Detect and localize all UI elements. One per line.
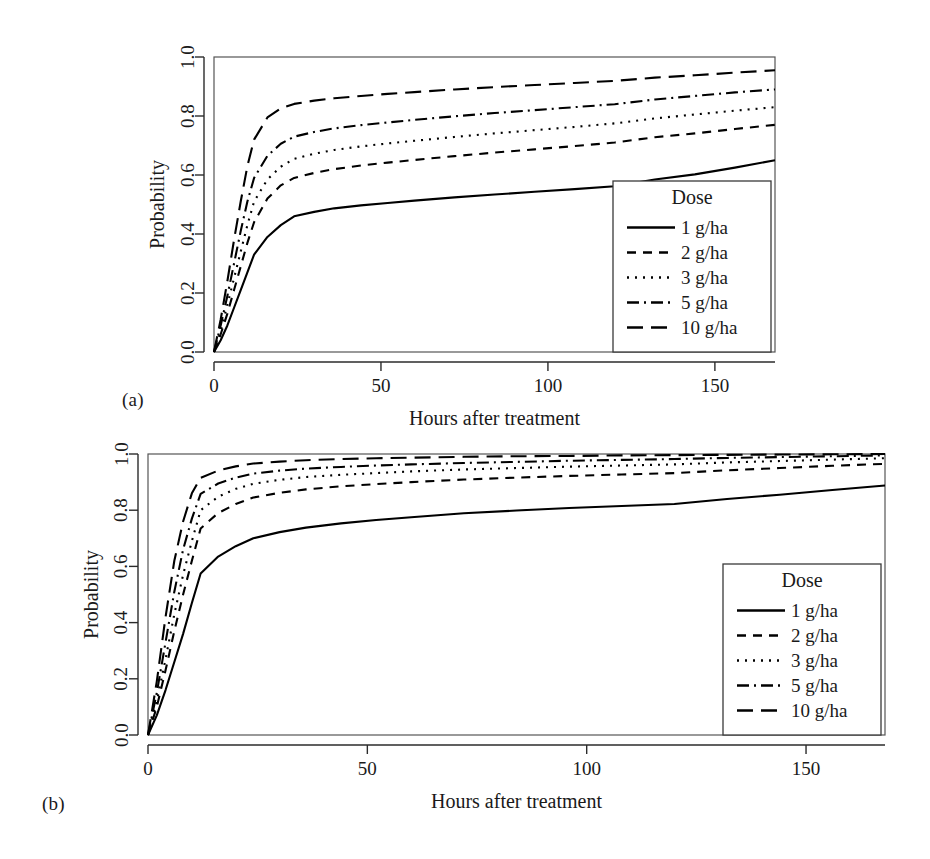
legend-label: 10 g/ha (681, 317, 738, 338)
x-axis-title: Hours after treatment (431, 790, 602, 812)
y-tick-label: 0.2 (111, 667, 132, 691)
panel-caption-b: (b) (42, 793, 65, 815)
y-tick-label: 0.6 (177, 163, 198, 187)
legend: Dose1 g/ha2 g/ha3 g/ha5 g/ha10 g/ha (723, 564, 881, 735)
panel-caption-a: (a) (122, 389, 144, 411)
y-tick-label: 0.0 (111, 723, 132, 747)
chart-svg-b: 0.00.20.40.60.81.0050100150Hours after t… (0, 425, 930, 859)
y-tick-label: 0.4 (177, 222, 198, 246)
x-tick-label: 150 (792, 758, 821, 779)
legend-label: 3 g/ha (791, 650, 839, 671)
chart-panel-b: 0.00.20.40.60.81.0050100150Hours after t… (0, 425, 930, 859)
legend-label: 10 g/ha (791, 700, 848, 721)
y-tick-label: 0.6 (111, 555, 132, 579)
legend-label: 1 g/ha (791, 600, 839, 621)
legend-title: Dose (781, 569, 822, 591)
y-tick-label: 0.2 (177, 281, 198, 305)
legend: Dose1 g/ha2 g/ha3 g/ha5 g/ha10 g/ha (613, 181, 771, 352)
legend-title: Dose (671, 186, 712, 208)
x-tick-label: 0 (143, 758, 153, 779)
y-tick-label: 1.0 (177, 45, 198, 69)
figure-root: 0.00.20.40.60.81.0050100150Hours after t… (0, 0, 930, 859)
y-tick-label: 1.0 (111, 442, 132, 466)
x-tick-label: 150 (701, 375, 730, 396)
y-tick-label: 0.8 (111, 498, 132, 522)
y-axis-title: Probability (146, 160, 169, 249)
x-tick-label: 100 (572, 758, 601, 779)
legend-label: 2 g/ha (681, 242, 729, 263)
chart-panel-a: 0.00.20.40.60.81.0050100150Hours after t… (0, 0, 930, 425)
y-axis-title: Probability (80, 550, 103, 639)
y-tick-label: 0.0 (177, 340, 198, 364)
x-tick-label: 0 (209, 375, 219, 396)
legend-label: 5 g/ha (791, 675, 839, 696)
x-tick-label: 100 (534, 375, 563, 396)
y-tick-label: 0.8 (177, 104, 198, 128)
chart-svg-a: 0.00.20.40.60.81.0050100150Hours after t… (0, 0, 930, 425)
legend-label: 5 g/ha (681, 292, 729, 313)
x-tick-label: 50 (358, 758, 377, 779)
y-tick-label: 0.4 (111, 610, 132, 634)
legend-label: 3 g/ha (681, 267, 729, 288)
x-axis-title: Hours after treatment (409, 407, 580, 425)
x-tick-label: 50 (371, 375, 390, 396)
legend-label: 1 g/ha (681, 217, 729, 238)
legend-label: 2 g/ha (791, 625, 839, 646)
